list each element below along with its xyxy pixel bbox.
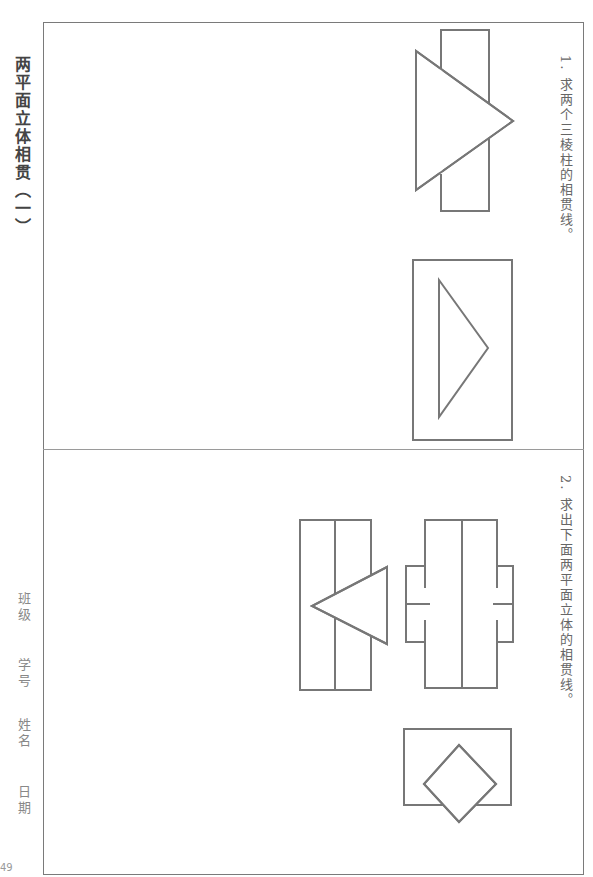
triangular-prism-outline (416, 51, 513, 190)
outer-rectangle (413, 260, 512, 440)
triangle-mask (312, 567, 387, 644)
technical-drawings (0, 0, 593, 877)
prism-front-view (416, 30, 513, 211)
prism-top-view (413, 260, 512, 440)
prism-with-triangle-view (300, 520, 387, 690)
inner-triangle (439, 280, 488, 417)
rectangle-with-diamond-view (404, 729, 511, 822)
diamond-mask (424, 745, 496, 822)
prism-with-notches-view (406, 520, 513, 688)
